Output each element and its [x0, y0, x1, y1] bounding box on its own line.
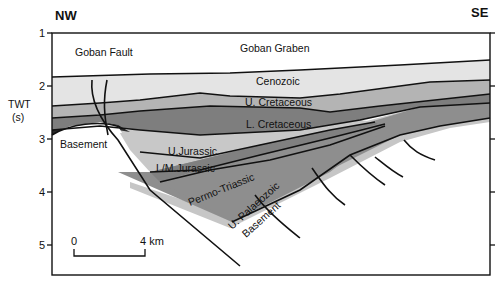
direction-nw: NW	[55, 8, 77, 23]
right-axis-ticks	[490, 33, 495, 245]
label-l-cretaceous: L. Cretaceous	[246, 118, 311, 130]
direction-se: SE	[471, 5, 489, 20]
label-goban-fault: Goban Fault	[75, 46, 133, 58]
geological-cross-section: 1 2 3 4 5 TWT (s) NW SE Goban Fault Goba…	[0, 0, 503, 284]
scale-bar-end: 4 km	[140, 235, 164, 247]
left-axis-ticks	[47, 33, 52, 245]
y-axis-label-twt: TWT	[8, 98, 31, 110]
label-goban-graben: Goban Graben	[240, 42, 310, 54]
y-tick-2: 2	[39, 80, 45, 92]
label-u-cretaceous: U. Cretaceous	[245, 96, 312, 108]
y-axis-label-unit: (s)	[12, 111, 24, 123]
y-tick-3: 3	[39, 133, 45, 145]
y-tick-1: 1	[39, 27, 45, 39]
y-tick-5: 5	[39, 239, 45, 251]
scale-bar-start: 0	[71, 235, 77, 247]
label-lm-jurassic: L/M.Jurassic	[156, 162, 215, 174]
y-tick-4: 4	[39, 186, 45, 198]
label-cenozoic: Cenozoic	[256, 75, 300, 87]
label-basement: Basement	[60, 138, 107, 150]
label-u-jurassic: U.Jurassic	[168, 145, 217, 157]
